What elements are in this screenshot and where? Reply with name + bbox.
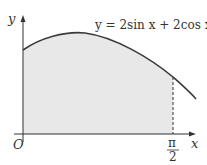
y-axis-arrow-icon: [21, 15, 26, 22]
tick-label-2: 2: [169, 150, 177, 164]
equation-label: y = 2sin x + 2cos x: [94, 18, 207, 32]
area-under-curve-diagram: y x O y = 2sin x + 2cos x π 2: [0, 0, 207, 165]
x-axis-label: x: [191, 136, 199, 151]
origin-label: O: [13, 137, 24, 152]
shaded-region: [23, 33, 173, 134]
y-axis-label: y: [7, 11, 16, 26]
tick-label-pi: π: [168, 136, 176, 150]
